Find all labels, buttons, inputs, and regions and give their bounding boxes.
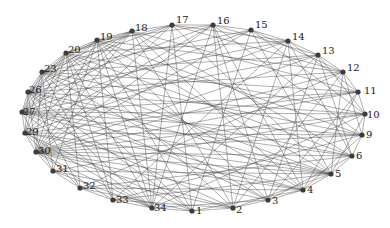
edge-9-33 bbox=[113, 135, 362, 200]
node-14 bbox=[285, 38, 290, 43]
node-label-14: 14 bbox=[292, 31, 305, 42]
node-label-4: 4 bbox=[307, 184, 313, 195]
edge-15-14 bbox=[251, 30, 288, 41]
edge-12-9 bbox=[343, 72, 362, 135]
edge-26-18 bbox=[28, 31, 132, 92]
node-label-9: 9 bbox=[366, 129, 372, 140]
edge-11-30 bbox=[36, 92, 358, 152]
node-2 bbox=[230, 205, 235, 210]
edge-9-4 bbox=[303, 135, 362, 190]
node-16 bbox=[210, 22, 215, 27]
node-label-32: 32 bbox=[83, 180, 96, 191]
node-label-5: 5 bbox=[335, 168, 341, 179]
edge-31-23 bbox=[42, 72, 53, 171]
node-18 bbox=[129, 28, 134, 33]
node-label-16: 16 bbox=[217, 15, 230, 26]
node-label-31: 31 bbox=[56, 163, 69, 174]
node-32 bbox=[77, 185, 82, 190]
node-label-23: 23 bbox=[44, 63, 57, 74]
node-label-29: 29 bbox=[26, 126, 39, 137]
network-graph: 1716151413121110965432134333231302927262… bbox=[0, 0, 390, 228]
node-19 bbox=[94, 37, 99, 42]
node-label-3: 3 bbox=[272, 195, 278, 206]
node-31 bbox=[50, 168, 55, 173]
node-label-18: 18 bbox=[135, 22, 148, 33]
node-5 bbox=[328, 171, 333, 176]
node-13 bbox=[315, 52, 320, 57]
edge-30-26 bbox=[28, 92, 36, 152]
node-label-27: 27 bbox=[23, 106, 36, 117]
node-12 bbox=[340, 69, 345, 74]
edge-34-27 bbox=[22, 112, 152, 208]
edge-4-1 bbox=[192, 190, 303, 211]
edge-34-31 bbox=[53, 171, 152, 208]
node-label-15: 15 bbox=[255, 19, 268, 30]
node-label-11: 11 bbox=[364, 85, 377, 96]
node-33 bbox=[110, 197, 115, 202]
edge-10-5 bbox=[331, 114, 365, 174]
node-label-17: 17 bbox=[176, 14, 189, 25]
node-label-34: 34 bbox=[154, 202, 167, 213]
node-label-26: 26 bbox=[29, 84, 42, 95]
edge-16-4 bbox=[213, 25, 303, 190]
node-label-19: 19 bbox=[100, 31, 113, 42]
node-label-10: 10 bbox=[367, 109, 380, 120]
node-6 bbox=[349, 153, 354, 158]
edge-13-3 bbox=[268, 55, 318, 200]
node-3 bbox=[265, 197, 270, 202]
node-label-1: 1 bbox=[196, 205, 202, 216]
edge-2-18 bbox=[132, 31, 233, 208]
node-label-6: 6 bbox=[356, 150, 362, 161]
node-label-33: 33 bbox=[116, 194, 129, 205]
node-1 bbox=[189, 208, 194, 213]
node-label-12: 12 bbox=[347, 62, 360, 73]
node-label-2: 2 bbox=[236, 204, 242, 215]
node-label-30: 30 bbox=[38, 145, 51, 156]
node-4 bbox=[300, 187, 305, 192]
network-graph-canvas: 1716151413121110965432134333231302927262… bbox=[0, 0, 390, 228]
edge-27-19 bbox=[22, 40, 97, 112]
edge-9-27 bbox=[22, 112, 362, 135]
node-9 bbox=[359, 132, 364, 137]
edge-33-30 bbox=[36, 152, 113, 200]
edge-6-27 bbox=[22, 112, 352, 156]
node-15 bbox=[248, 27, 253, 32]
node-label-13: 13 bbox=[322, 45, 335, 56]
edge-30-18 bbox=[36, 31, 132, 152]
node-label-20: 20 bbox=[68, 44, 81, 55]
node-11 bbox=[355, 89, 360, 94]
node-17 bbox=[169, 22, 174, 27]
